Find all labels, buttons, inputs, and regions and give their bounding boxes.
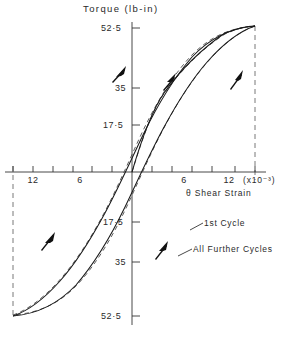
- x-tick-label-pos12: 12: [223, 175, 234, 185]
- series-first-cycle-descending: [13, 26, 255, 315]
- arrow-upper-right-tail: [230, 74, 242, 90]
- series-all-further-cycles-ascending: [13, 26, 255, 316]
- x-axis-title: θ Shear Strain: [186, 188, 252, 198]
- arrow-lower-left-tail: [41, 235, 54, 251]
- series-all-further-cycles-descending: [13, 26, 255, 316]
- y-tick-label-17_5-pos: 17·5: [103, 120, 123, 130]
- arrow-lower-left-icon: [45, 232, 55, 243]
- x-axis-multiplier-label: (x10⁻³): [243, 175, 275, 185]
- hysteresis-chart: Torque (lb-in) 52·5 35 17·5 17·5 35 52·5…: [0, 0, 284, 338]
- chart-title: Torque (lb-in): [83, 3, 159, 14]
- y-tick-label-52_5-pos: 52·5: [101, 23, 121, 33]
- series-virgin-loading-solid: [132, 26, 255, 172]
- arrow-upper-left-tail: [112, 69, 125, 83]
- y-tick-label-52_5-neg: 52·5: [101, 311, 121, 321]
- arrow-upper-left-icon: [116, 66, 126, 77]
- annotation-first-cycle: 1st Cycle: [204, 218, 245, 228]
- chart-svg: Torque (lb-in) 52·5 35 17·5 17·5 35 52·5…: [0, 0, 284, 338]
- leader-all-further-cycles: [178, 249, 192, 256]
- series-first-cycle-ascending: [13, 26, 255, 315]
- arrow-lower-right-tail: [155, 245, 167, 260]
- annotation-all-further-cycles: All Further Cycles: [193, 244, 273, 254]
- x-tick-label-neg6: 6: [77, 175, 83, 185]
- series-first-cycle-virgin: [132, 26, 255, 172]
- direction-arrows: [41, 66, 243, 260]
- y-tick-label-17_5-neg: 17·5: [103, 217, 123, 227]
- leader-first-cycle: [190, 223, 203, 230]
- y-tick-label-35-neg: 35: [115, 257, 126, 267]
- x-tick-label-pos6: 6: [181, 175, 187, 185]
- x-tick-label-neg12: 12: [27, 175, 38, 185]
- arrow-upper-right-icon: [235, 70, 243, 81]
- y-tick-label-35-pos: 35: [115, 83, 126, 93]
